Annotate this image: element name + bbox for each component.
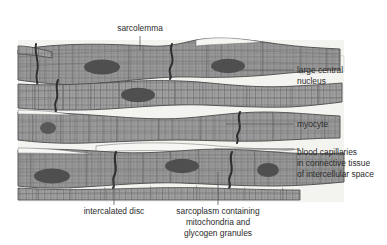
nucleus (121, 88, 155, 103)
sarcolemma-outline (18, 188, 300, 200)
label-sarcoplasm-line3: glycogen granules (184, 228, 252, 238)
nucleus (34, 168, 70, 183)
label-myocyte: myocyte (297, 119, 329, 129)
nucleus (40, 122, 56, 134)
nucleus (165, 159, 199, 173)
label-sarcoplasm-line1: sarcoplasm containing (176, 206, 260, 216)
label-large-central-nucleus-line2: nucleus (297, 76, 326, 86)
label-blood-capillaries-line2: in connective tissue (297, 158, 370, 168)
nucleus (211, 59, 245, 73)
label-large-central-nucleus-line1: large central (297, 65, 343, 75)
label-blood-capillaries-line3: of intercellular space (297, 169, 374, 179)
label-sarcoplasm-line2: mitochondria and (186, 217, 251, 227)
label-sarcolemma: sarcolemma (117, 23, 163, 33)
label-intercalated-disc: intercalated disc (84, 206, 145, 216)
nucleus (257, 163, 279, 177)
nucleus (84, 60, 120, 75)
cardiac-muscle-diagram: sarcolemma large central nucleus myocyte… (0, 0, 387, 245)
label-blood-capillaries-line1: blood capillaries (297, 147, 357, 157)
